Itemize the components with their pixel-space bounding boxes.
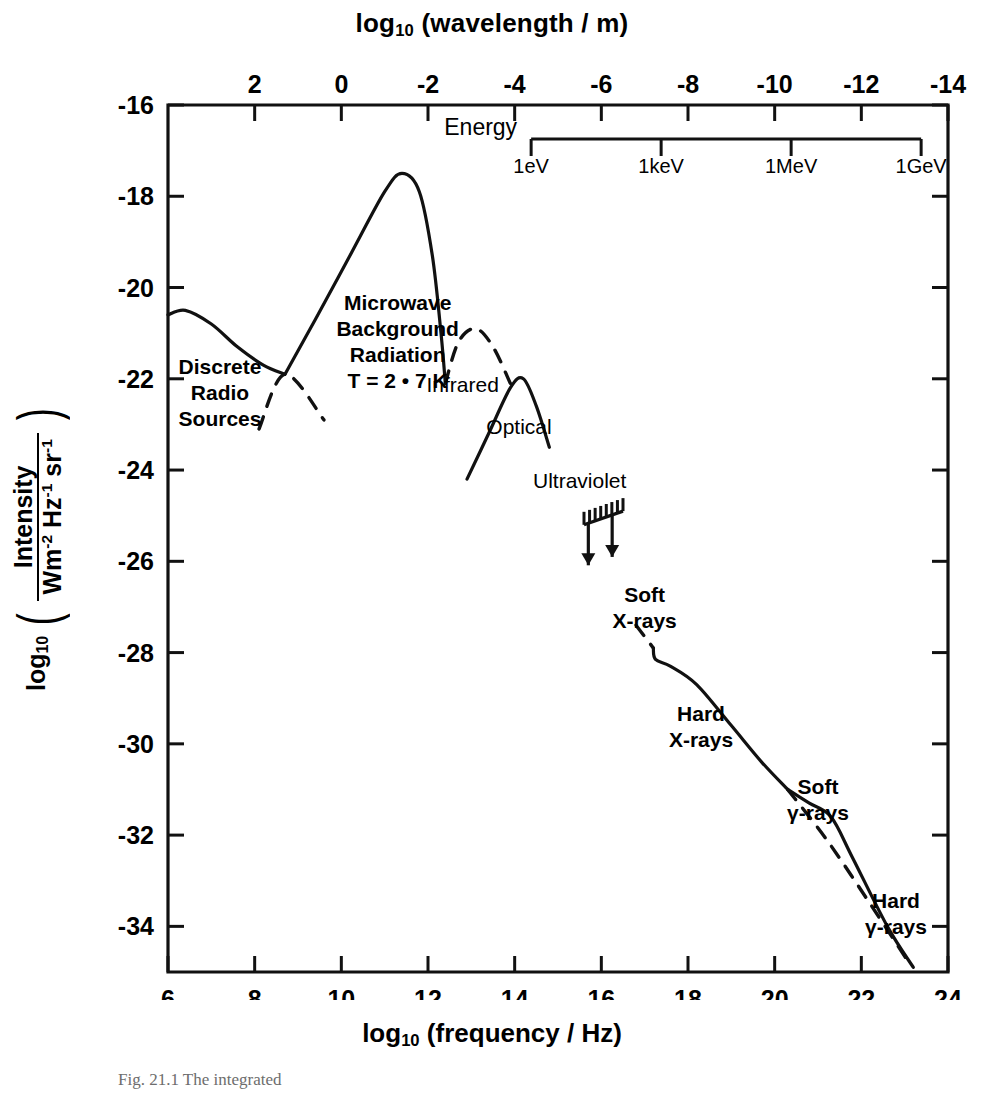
figure-caption: Fig. 21.1 The integrated: [118, 1070, 818, 1090]
bottom-axis-title: log10 (frequency / Hz): [0, 1018, 984, 1051]
svg-text:22: 22: [847, 985, 875, 1000]
svg-text:0: 0: [334, 70, 348, 98]
annotation-hard: HardX-rays: [669, 702, 733, 751]
svg-text:-2: -2: [417, 70, 439, 98]
svg-text:-20: -20: [118, 274, 154, 302]
svg-text:-16: -16: [118, 91, 154, 119]
curve-radio-extrapolation-dashed: [259, 374, 324, 429]
svg-text:-8: -8: [677, 70, 699, 98]
svg-text:2: 2: [248, 70, 262, 98]
svg-text:8: 8: [248, 985, 262, 1000]
energy-axis: 1eV1keV1MeV1GeVEnergy: [444, 114, 947, 177]
svg-text:1MeV: 1MeV: [765, 155, 818, 177]
left-axis-ticks: -16-18-20-22-24-26-28-30-32-34: [118, 91, 184, 940]
top-axis-ticks: 20-2-4-6-8-10-12-14: [248, 70, 966, 121]
svg-text:-12: -12: [843, 70, 879, 98]
svg-text:-26: -26: [118, 547, 154, 575]
svg-text:-28: -28: [118, 639, 154, 667]
svg-text:1GeV: 1GeV: [896, 155, 948, 177]
annotation-infrared: Infrared: [426, 373, 498, 396]
svg-text:12: 12: [414, 985, 442, 1000]
svg-text:16: 16: [587, 985, 615, 1000]
plot-frame: [168, 105, 948, 972]
svg-text:-34: -34: [118, 912, 154, 940]
svg-text:Energy: Energy: [444, 114, 517, 140]
svg-text:-32: -32: [118, 821, 154, 849]
annotation-soft: SoftX-rays: [613, 583, 677, 632]
svg-text:24: 24: [934, 985, 962, 1000]
svg-text:-30: -30: [118, 730, 154, 758]
svg-text:-18: -18: [118, 182, 154, 210]
svg-text:1eV: 1eV: [513, 155, 549, 177]
ultraviolet-upper-limits: [581, 498, 623, 565]
spectrum-plot: 20-2-4-6-8-10-12-14 681012141618202224 -…: [0, 0, 984, 1000]
svg-text:14: 14: [501, 985, 529, 1000]
svg-text:-24: -24: [118, 456, 154, 484]
spectrum-curves: [168, 173, 913, 967]
svg-text:-22: -22: [118, 365, 154, 393]
svg-text:1keV: 1keV: [638, 155, 684, 177]
svg-text:-4: -4: [504, 70, 526, 98]
curve-annotations: DiscreteRadioSourcesMicrowaveBackgroundR…: [179, 291, 927, 938]
svg-text:10: 10: [327, 985, 355, 1000]
annotation-optical: Optical: [486, 415, 551, 438]
bottom-axis-title-log: log: [362, 1018, 401, 1048]
svg-text:-10: -10: [757, 70, 793, 98]
annotation-discrete: DiscreteRadioSources: [179, 355, 262, 430]
bottom-axis-title-rest: (frequency / Hz): [420, 1018, 622, 1048]
svg-text:20: 20: [761, 985, 789, 1000]
svg-text:-6: -6: [590, 70, 612, 98]
svg-text:18: 18: [674, 985, 702, 1000]
bottom-axis-ticks: 681012141618202224: [161, 956, 962, 1000]
bottom-axis-title-sub: 10: [401, 1031, 420, 1050]
annotation-ultraviolet: Ultraviolet: [533, 469, 627, 492]
right-axis-ticks: [932, 105, 948, 926]
annotation-hard: Hardγ-rays: [865, 889, 927, 938]
svg-text:-14: -14: [930, 70, 966, 98]
svg-text:6: 6: [161, 985, 175, 1000]
figure-container: log10 (wavelength / m) log10 ( Intensity…: [0, 0, 984, 1094]
